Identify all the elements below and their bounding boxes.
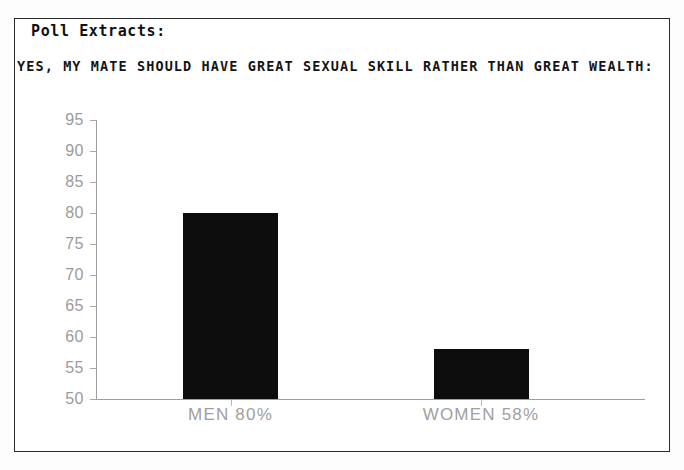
poll-extract-frame [14, 18, 670, 452]
poll-headline: YES, MY MATE SHOULD HAVE GREAT SEXUAL SK… [17, 58, 654, 74]
poll-extracts-kicker: Poll Extracts: [31, 22, 166, 40]
